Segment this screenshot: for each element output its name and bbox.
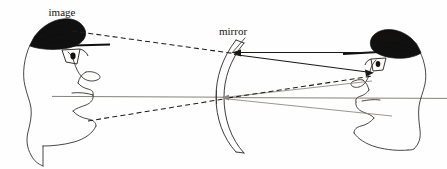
diagram-canvas: image mirror object: [0, 0, 447, 169]
image-head: [24, 19, 110, 166]
object-head: [343, 30, 426, 151]
label-image: image: [49, 6, 76, 18]
optical-axis: [52, 96, 447, 98]
image-head-glasses: [62, 49, 88, 64]
label-object: object: [377, 30, 404, 42]
optics-diagram-svg: image mirror object: [0, 0, 447, 169]
label-mirror: mirror: [219, 25, 247, 37]
ray-dashed-group: [72, 31, 372, 121]
